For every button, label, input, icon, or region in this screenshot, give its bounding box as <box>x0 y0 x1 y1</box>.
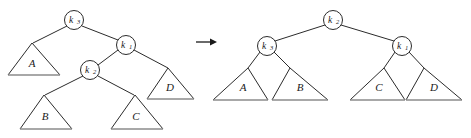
edge-k3-to-A <box>248 52 260 68</box>
node-k1-left-subscript: 1 <box>129 43 132 50</box>
edge-k2-to-B <box>45 76 83 95</box>
subtree-C-right: C <box>350 68 405 100</box>
node-k1-right: k 1 <box>393 37 412 56</box>
edge-k3-to-B <box>274 52 290 68</box>
subtree-A-right-label: A <box>239 81 247 93</box>
subtree-B-right-label: B <box>297 81 304 93</box>
node-k3-right: k 3 <box>258 37 277 56</box>
subtree-C-right-label: C <box>375 81 383 93</box>
edge-k2-to-k1 <box>341 25 394 41</box>
subtree-C-left: C <box>111 95 163 129</box>
subtree-B-left-label: B <box>42 110 49 122</box>
subtree-D-left-label: D <box>165 81 174 93</box>
node-k2-right-circle <box>324 11 343 30</box>
node-k1-left: k 1 <box>117 36 136 55</box>
subtree-D-right: D <box>406 68 462 100</box>
subtree-A-left-label: A <box>28 57 36 69</box>
node-k2-left-circle <box>81 61 100 80</box>
subtree-A-left: A <box>8 43 60 75</box>
subtree-C-left-label: C <box>132 110 140 122</box>
node-k3-right-circle <box>258 37 277 56</box>
node-k3-left: k 3 <box>65 11 84 30</box>
subtree-D-right-label: D <box>429 81 438 93</box>
subtree-A-right: A <box>213 68 268 100</box>
subtree-B-right: B <box>272 68 328 100</box>
edge-k1-to-C <box>384 52 395 68</box>
node-k2-left: k 2 <box>81 61 100 80</box>
transition-arrow-head <box>210 39 217 46</box>
node-k2-right: k 2 <box>324 11 343 30</box>
tree-rotation-diagram: A B C D k 3 <box>0 0 471 138</box>
edge-k1-to-D <box>134 50 168 68</box>
subtree-D-left: D <box>147 68 194 99</box>
edge-k1-to-k2 <box>98 50 118 65</box>
node-k3-left-circle <box>65 11 84 30</box>
transition-arrow <box>196 39 217 46</box>
edge-group-left <box>33 26 168 95</box>
rotation-figure: A B C D k 3 <box>0 0 471 138</box>
edge-k2-to-C <box>98 76 134 95</box>
subtree-B-left: B <box>20 95 72 129</box>
edge-k2-to-k3 <box>275 25 325 41</box>
node-k1-right-subscript: 1 <box>405 44 408 51</box>
edge-k3-to-k1 <box>82 26 118 40</box>
after-rotation-tree: A B C D k 2 <box>213 11 462 101</box>
node-k1-left-circle <box>117 36 136 55</box>
edge-k3-to-A <box>33 26 67 43</box>
before-rotation-tree: A B C D k 3 <box>8 11 194 130</box>
node-k1-right-circle <box>393 37 412 56</box>
edge-k1-to-D <box>409 52 424 68</box>
